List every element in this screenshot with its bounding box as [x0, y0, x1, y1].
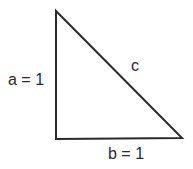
hypotenuse-label: c	[131, 58, 139, 74]
side-a-label: a = 1	[8, 72, 44, 88]
side-b-label: b = 1	[108, 146, 144, 162]
triangle-diagram: a = 1 c b = 1	[0, 0, 193, 169]
